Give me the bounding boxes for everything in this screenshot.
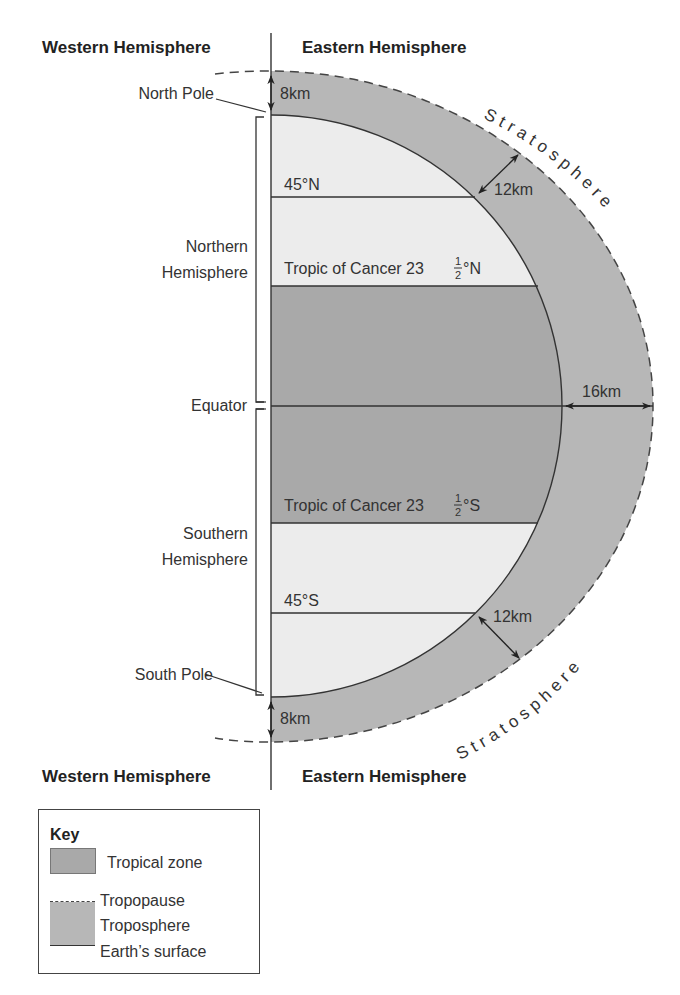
- tropopause-dashed-line-icon: [50, 901, 95, 902]
- northern-hemisphere-label-1: Northern: [186, 238, 248, 255]
- latitude-45n-label: 45°N: [284, 176, 320, 193]
- tropic-n-suffix: °N: [463, 260, 481, 277]
- southern-hemisphere-bracket: [256, 409, 264, 695]
- tropic-s-suffix: °S: [463, 497, 480, 514]
- tropic-n-prefix: Tropic of Cancer 23: [284, 260, 424, 277]
- southern-hemisphere-label-1: Southern: [183, 525, 248, 542]
- tropic-n-frac-den: 2: [455, 269, 461, 281]
- tropic-s-frac-num: 1: [455, 492, 461, 504]
- equator-thickness-label: 16km: [582, 383, 621, 400]
- south-pole-leader: [205, 674, 262, 693]
- mid-north-thickness-label: 12km: [494, 181, 533, 198]
- northern-hemisphere-bracket: [256, 117, 264, 402]
- north-pole-leader: [216, 99, 266, 112]
- troposphere-swatch: [50, 902, 95, 945]
- tropical-zone-swatch: [50, 848, 96, 874]
- tropic-s-prefix: Tropic of Cancer 23: [284, 497, 424, 514]
- legend-tropical-zone-label: Tropical zone: [107, 854, 202, 872]
- legend-troposphere-label: Troposphere: [100, 917, 190, 935]
- footer-eastern-hemisphere: Eastern Hemisphere: [302, 767, 466, 786]
- tropic-n-frac-num: 1: [455, 255, 461, 267]
- legend-earth-surface-label: Earth’s surface: [100, 943, 206, 961]
- south-pole-thickness-label: 8km: [280, 710, 310, 727]
- legend-key: Key Tropical zone Tropopause Troposphere…: [38, 809, 260, 974]
- tropical-zone: [271, 286, 571, 523]
- equator-label: Equator: [191, 397, 248, 414]
- header-eastern-hemisphere: Eastern Hemisphere: [302, 38, 466, 57]
- south-pole-label: South Pole: [135, 666, 213, 683]
- mid-south-thickness-label: 12km: [493, 608, 532, 625]
- footer-western-hemisphere: Western Hemisphere: [42, 767, 211, 786]
- north-pole-label: North Pole: [138, 85, 214, 102]
- header-western-hemisphere: Western Hemisphere: [42, 38, 211, 57]
- legend-title: Key: [50, 826, 79, 844]
- tropic-s-frac-den: 2: [455, 506, 461, 518]
- earth-surface-solid-line-icon: [50, 945, 95, 946]
- legend-tropopause-label: Tropopause: [100, 892, 185, 910]
- tropic-s-label: Tropic of Cancer 23: [284, 497, 424, 514]
- southern-hemisphere-label-2: Hemisphere: [162, 551, 248, 568]
- north-pole-thickness-label: 8km: [280, 85, 310, 102]
- tropic-n-label: Tropic of Cancer 23: [284, 260, 424, 277]
- northern-hemisphere-label-2: Hemisphere: [162, 264, 248, 281]
- latitude-45s-label: 45°S: [284, 592, 319, 609]
